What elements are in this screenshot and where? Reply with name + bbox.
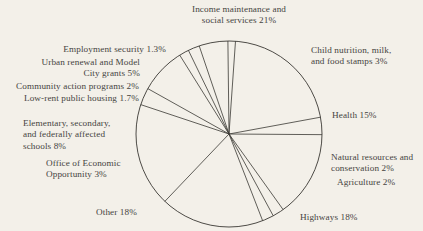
slice-label-natural-resources: Natural resources and conservation 2% [331,152,423,175]
slice-label-community-action-programs: Community action programs 2% [0,81,139,92]
pie-chart-figure: Income maintenance and social services 2… [0,0,423,231]
slice-label-employment-security: Employment security 1.3% [40,44,166,55]
slice-label-schools: Elementary, secondary, and federally aff… [23,118,129,152]
slice-label-low-rent-public-housing: Low-rent public housing 1.7% [0,93,139,104]
slice-label-highways: Highways 18% [300,212,396,223]
slice-label-health: Health 15% [332,110,422,121]
slice-label-office-economic-opportunity: Office of Economic Opportunity 3% [46,158,129,181]
pie-slices-group [136,41,322,227]
slice-label-urban-renewal: Urban renewal and Model City grants 5% [26,57,140,80]
slice-label-other: Other 18% [96,207,176,218]
slice-label-agriculture: Agriculture 2% [337,177,423,188]
slice-label-income-maintenance: Income maintenance and social services 2… [174,4,304,27]
slice-label-child-nutrition: Child nutrition, milk, and food stamps 3… [311,45,423,68]
